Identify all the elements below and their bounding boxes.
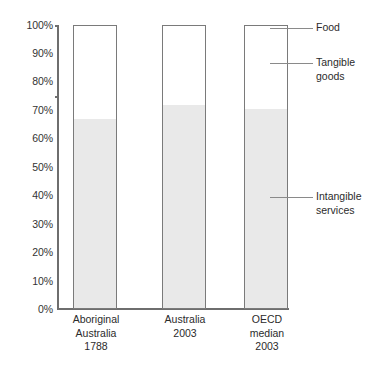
category-label-australia-2003: Australia 2003 (150, 313, 220, 340)
y-tick-label-50: 50% (9, 162, 53, 173)
legend-tangible-line2: goods (316, 70, 382, 84)
y-tick-label-100: 100% (9, 20, 53, 31)
y-tick-mark-100 (55, 25, 59, 27)
y-tick-70: 70% (0, 105, 53, 116)
leader-line-tangible-goods (270, 63, 313, 64)
y-tick-label-90: 90% (9, 48, 53, 59)
y-tick-label-0: 0% (9, 304, 53, 315)
y-tick-label-10: 10% (9, 276, 53, 287)
legend-label-tangible-goods: Tangible goods (316, 56, 382, 83)
leader-line-food (270, 28, 313, 29)
y-tick-60: 60% (0, 133, 53, 144)
legend-tangible-line1: Tangible (316, 56, 382, 70)
y-tick-50: 50% (0, 162, 53, 173)
category-label-line2: Australia (60, 327, 132, 341)
legend-intangible-line1: Intangible (316, 190, 382, 204)
bar-segment-intangible-services (163, 105, 205, 308)
y-tick-20: 20% (0, 247, 53, 258)
bar-segment-intangible-services (245, 109, 287, 308)
legend-food-line1: Food (316, 21, 382, 35)
y-tick-10: 10% (0, 276, 53, 287)
y-tick-label-40: 40% (9, 190, 53, 201)
category-label-line1: OECD (232, 313, 302, 327)
category-label-line2: median (232, 327, 302, 341)
y-tick-label-80: 80% (9, 76, 53, 87)
y-tick-0: 0% (0, 304, 53, 315)
bar-australia-2003 (162, 25, 206, 309)
category-label-line2: 2003 (150, 327, 220, 341)
legend-intangible-line2: services (316, 204, 382, 218)
y-tick-mark-75 (55, 96, 59, 98)
y-axis-line (57, 25, 59, 309)
y-tick-80: 80% (0, 76, 53, 87)
stacked-bar-chart: 100% 90% 80% 70% 60% 50% 40% 30% 20% 10%… (0, 0, 383, 378)
category-label-line3: 2003 (232, 340, 302, 354)
y-tick-90: 90% (0, 48, 53, 59)
y-tick-label-70: 70% (9, 105, 53, 116)
category-label-oecd-median-2003: OECD median 2003 (232, 313, 302, 354)
category-label-line1: Australia (150, 313, 220, 327)
category-label-aboriginal-australia-1788: Aboriginal Australia 1788 (60, 313, 132, 354)
y-tick-100: 100% (0, 20, 53, 31)
leader-line-intangible-services (270, 197, 313, 198)
bar-oecd-median-2003 (244, 25, 288, 309)
legend-label-intangible-services: Intangible services (316, 190, 382, 217)
legend-label-food: Food (316, 21, 382, 35)
y-tick-label-60: 60% (9, 133, 53, 144)
bar-segment-intangible-services (74, 119, 116, 308)
bar-aboriginal-australia-1788 (73, 25, 117, 309)
category-label-line3: 1788 (60, 340, 132, 354)
y-tick-label-30: 30% (9, 219, 53, 230)
y-tick-30: 30% (0, 219, 53, 230)
y-tick-40: 40% (0, 190, 53, 201)
category-label-line1: Aboriginal (60, 313, 132, 327)
y-tick-label-20: 20% (9, 247, 53, 258)
